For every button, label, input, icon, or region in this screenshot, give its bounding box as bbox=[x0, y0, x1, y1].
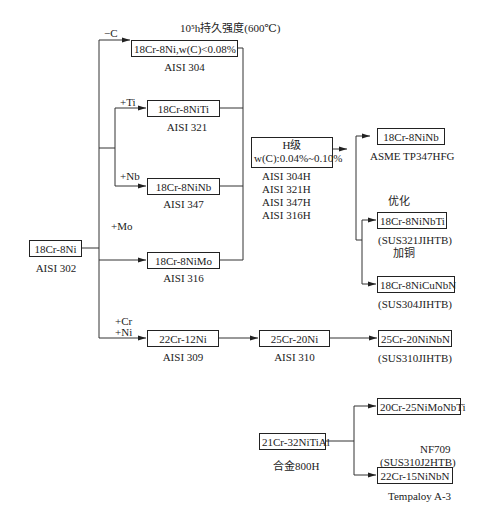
grade-sus304: (SUS304JIHTB) bbox=[378, 298, 452, 310]
node-309: 22Cr-12Ni bbox=[147, 330, 219, 347]
label-add-copper: 加铜 bbox=[393, 247, 415, 259]
node-nf709: 22Cr-15NiNbN bbox=[377, 467, 453, 484]
label-optimize: 优化 bbox=[388, 195, 410, 207]
label-plus-nb: +Nb bbox=[120, 170, 140, 182]
grade-347: AISI 347 bbox=[147, 198, 220, 210]
grade-316: AISI 316 bbox=[147, 272, 220, 284]
node-321: 18Cr-8NiTi bbox=[147, 100, 220, 117]
label-plus-ni: +Ni bbox=[115, 327, 132, 338]
h-grade-line2: w(C):0.04%~0.10% bbox=[254, 152, 330, 165]
grade-sus321: (SUS321JIHTB) bbox=[378, 234, 452, 246]
label-plus-mo: +Mo bbox=[111, 220, 132, 232]
node-800h: 21Cr-32NiTiAl bbox=[259, 433, 326, 450]
grade-309: AISI 309 bbox=[147, 351, 219, 363]
node-sus304: 18Cr-8NiCuNbN bbox=[377, 276, 455, 293]
node-310: 25Cr-20Ni bbox=[259, 330, 330, 347]
node-h-grade: H级 w(C):0.04%~0.10% bbox=[251, 137, 333, 168]
h-grade-line1: H级 bbox=[254, 139, 330, 152]
node-nimonbti: 20Cr-25NiMoNbTi bbox=[377, 398, 461, 415]
h-grade-list: AISI 304H AISI 321H AISI 347H AISI 316H bbox=[262, 170, 311, 222]
label-plus-cr-ni: +Cr +Ni bbox=[115, 316, 132, 338]
grade-304: AISI 304 bbox=[131, 61, 238, 73]
grade-304h: AISI 304H bbox=[262, 170, 311, 183]
grade-tempaloy: Tempaloy A-3 bbox=[388, 490, 451, 502]
grade-tp347hfg: ASME TP347HFG bbox=[370, 150, 454, 162]
grade-321h: AISI 321H bbox=[262, 183, 311, 196]
node-347: 18Cr-8NiNb bbox=[147, 178, 220, 195]
node-tp347hfg: 18Cr-8NiNb bbox=[377, 128, 445, 145]
node-316: 18Cr-8NiMo bbox=[147, 252, 220, 269]
connector-lines bbox=[0, 0, 487, 519]
grade-base: AISI 302 bbox=[30, 262, 82, 274]
node-304: 18Cr-8Ni,w(C)<0.08% bbox=[131, 40, 238, 57]
label-plus-ti: +Ti bbox=[120, 96, 136, 108]
node-sus321: 18Cr-8NiNbTi bbox=[377, 212, 447, 229]
grade-sus310: (SUS310JIHTB) bbox=[378, 352, 452, 364]
chart-title: 10⁵h持久强度(600℃) bbox=[180, 22, 280, 34]
label-minus-c: −C bbox=[104, 27, 118, 39]
grade-321: AISI 321 bbox=[147, 121, 227, 133]
node-sus310: 25Cr-20NiNbN bbox=[378, 330, 452, 347]
grade-316h: AISI 316H bbox=[262, 209, 311, 222]
grade-800h: 合金800H bbox=[273, 460, 319, 472]
grade-310: AISI 310 bbox=[259, 351, 330, 363]
grade-347h: AISI 347H bbox=[262, 196, 311, 209]
node-base: 18Cr-8Ni bbox=[29, 240, 82, 257]
grade-nf709: NF709 bbox=[420, 443, 451, 455]
